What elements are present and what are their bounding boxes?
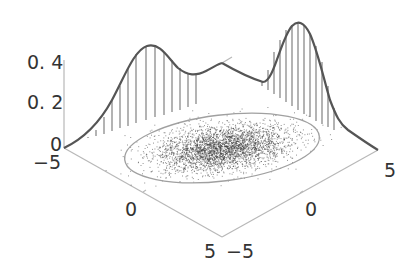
back-corner-tick bbox=[222, 57, 232, 63]
left-marginal-curve bbox=[64, 45, 222, 148]
y-axis-line bbox=[222, 150, 378, 237]
x-tick-label-max: 5 bbox=[204, 242, 216, 261]
3d-density-chart bbox=[0, 0, 415, 278]
z-tick-label-0.2: 0. 2 bbox=[27, 93, 63, 112]
left-marginal-stems bbox=[88, 46, 196, 138]
scatter-points bbox=[106, 107, 342, 187]
x-axis-tick-0 bbox=[143, 190, 146, 192]
y-tick-label-min: −5 bbox=[226, 242, 254, 261]
x-tick-label-mid: 0 bbox=[125, 200, 137, 219]
y-tick-label-mid: 0 bbox=[305, 200, 317, 219]
z-tick-label-0.4: 0. 4 bbox=[27, 53, 63, 72]
x-tick-label-min: −5 bbox=[33, 153, 61, 172]
right-marginal-curve bbox=[222, 23, 378, 150]
x-axis-line bbox=[64, 148, 222, 237]
y-tick-label-max: 5 bbox=[384, 161, 396, 180]
